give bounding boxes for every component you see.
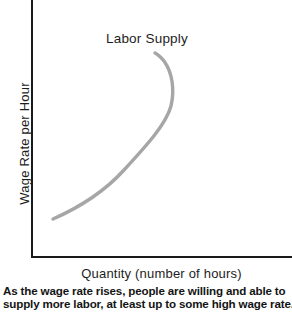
caption-line-1: As the wage rate rises, people are willi… — [3, 284, 292, 297]
labor-supply-figure: Labor Supply Wage Rate per Hour Quantity… — [0, 0, 292, 312]
figure-caption: As the wage rate rises, people are willi… — [3, 284, 292, 310]
caption-line-2: supply more labor, at least up to some h… — [3, 297, 292, 310]
labor-supply-curve — [53, 53, 173, 219]
labor-supply-curve-label: Labor Supply — [106, 31, 188, 46]
x-axis-label: Quantity (number of hours) — [31, 266, 292, 281]
y-axis-label: Wage Rate per Hour — [17, 79, 32, 209]
